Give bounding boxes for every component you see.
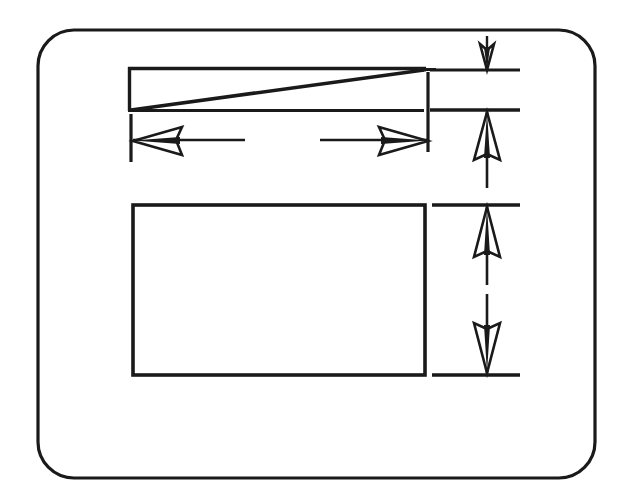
technical-drawing-svg — [0, 0, 626, 500]
drawing-canvas — [0, 0, 626, 500]
page-background — [0, 0, 626, 500]
wedge-apex-stub — [412, 69, 426, 70]
